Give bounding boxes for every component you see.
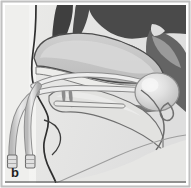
- illustration-bottom-edge: [5, 181, 186, 183]
- balloon-specular-highlight: [142, 78, 159, 92]
- catheter-connector-lower: [26, 155, 36, 168]
- panel-label: b: [11, 166, 19, 179]
- anatomical-illustration: [0, 0, 191, 188]
- figure-panel-b: b: [0, 0, 191, 188]
